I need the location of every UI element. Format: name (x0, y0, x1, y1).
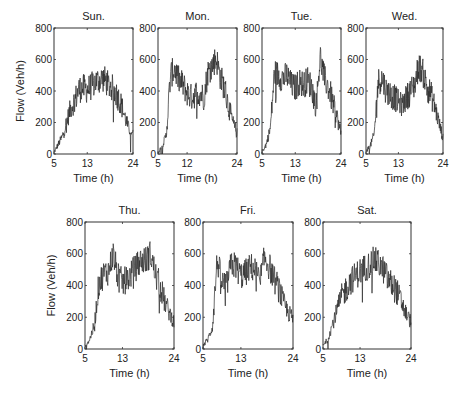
y-tick-label: 400 (66, 280, 83, 291)
y-tick-label: 400 (347, 86, 364, 97)
flow-series-line (54, 67, 133, 153)
y-tick-label: 400 (243, 86, 260, 97)
y-tick-label: 600 (304, 248, 321, 259)
x-tick-label: 24 (437, 158, 449, 169)
y-axis-label: Flow (Veh/h) (45, 255, 57, 317)
x-tick-label: 24 (127, 158, 139, 169)
y-tick-label: 800 (347, 23, 364, 34)
x-tick-label: 24 (287, 353, 299, 364)
panel-title: Sat. (357, 204, 377, 216)
y-tick-label: 600 (139, 54, 156, 65)
y-tick-label: 200 (347, 117, 364, 128)
x-tick-label: 13 (393, 158, 405, 169)
x-tick-label: 5 (363, 158, 369, 169)
x-tick-label: 13 (235, 353, 247, 364)
x-tick-label: 5 (82, 353, 88, 364)
y-tick-label: 800 (304, 217, 321, 228)
x-tick-label: 24 (231, 158, 243, 169)
x-tick-label: 13 (82, 158, 94, 169)
x-tick-label: 5 (51, 158, 57, 169)
x-tick-label: 24 (335, 158, 347, 169)
y-tick-label: 800 (35, 23, 52, 34)
y-tick-label: 200 (304, 312, 321, 323)
panel-title: Mon. (185, 10, 209, 22)
flow-series-line (366, 56, 443, 154)
flow-series-line (203, 248, 293, 349)
x-tick-label: 13 (117, 353, 129, 364)
panel-title: Thu. (118, 204, 140, 216)
y-tick-label: 600 (35, 54, 52, 65)
flow-series-line (323, 247, 411, 349)
y-tick-label: 200 (66, 312, 83, 323)
y-tick-label: 800 (243, 23, 260, 34)
y-tick-label: 400 (139, 86, 156, 97)
panel-title: Fri. (240, 204, 256, 216)
panel-title: Wed. (392, 10, 417, 22)
panel-title: Sun. (82, 10, 105, 22)
y-axis-label: Flow (Veh/h) (14, 60, 26, 122)
x-tick-label: 13 (290, 158, 302, 169)
panel-tue: Tue.020040060080051324Time (h) (243, 10, 347, 184)
x-axis-label: Time (h) (347, 367, 388, 379)
x-axis-label: Time (h) (281, 172, 322, 184)
x-tick-label: 5 (259, 158, 265, 169)
y-tick-label: 600 (66, 248, 83, 259)
flow-series-line (262, 47, 341, 153)
x-tick-label: 24 (168, 353, 180, 364)
x-tick-label: 5 (155, 158, 161, 169)
x-axis-label: Time (h) (228, 367, 269, 379)
y-tick-label: 600 (184, 248, 201, 259)
x-tick-label: 12 (182, 158, 194, 169)
y-tick-label: 200 (139, 117, 156, 128)
flow-series-line (158, 50, 237, 154)
y-tick-label: 800 (184, 217, 201, 228)
weekly-traffic-flow-figure: Sun.020040060080051324Time (h)Flow (Veh/… (0, 0, 451, 393)
x-axis-label: Time (h) (109, 367, 150, 379)
panel-wed: Wed.020040060080051324Time (h) (347, 10, 449, 184)
x-tick-label: 24 (405, 353, 417, 364)
panel-sun: Sun.020040060080051324Time (h)Flow (Veh/… (14, 10, 139, 184)
flow-series-line (85, 242, 174, 349)
y-tick-label: 800 (139, 23, 156, 34)
y-tick-label: 200 (35, 117, 52, 128)
x-tick-label: 5 (320, 353, 326, 364)
y-tick-label: 400 (304, 280, 321, 291)
y-tick-label: 600 (347, 54, 364, 65)
y-tick-label: 800 (66, 217, 83, 228)
x-axis-label: Time (h) (177, 172, 218, 184)
panel-fri: Fri.020040060080051324Time (h) (184, 204, 299, 379)
panel-title: Tue. (291, 10, 313, 22)
y-tick-label: 200 (184, 312, 201, 323)
x-tick-label: 13 (354, 353, 366, 364)
y-tick-label: 200 (243, 117, 260, 128)
y-tick-label: 400 (184, 280, 201, 291)
panel-mon: Mon.020040060080051224Time (h) (139, 10, 243, 184)
y-tick-label: 600 (243, 54, 260, 65)
y-tick-label: 400 (35, 86, 52, 97)
x-tick-label: 5 (200, 353, 206, 364)
panel-sat: Sat.020040060080051324Time (h) (304, 204, 417, 379)
x-axis-label: Time (h) (384, 172, 425, 184)
x-axis-label: Time (h) (73, 172, 114, 184)
panel-thu: Thu.020040060080051324Time (h)Flow (Veh/… (45, 204, 180, 379)
